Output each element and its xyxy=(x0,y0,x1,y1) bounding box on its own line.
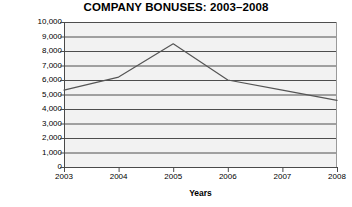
x-axis-tick-label: 2006 xyxy=(208,172,248,181)
x-axis-tick-label: 2004 xyxy=(99,172,139,181)
x-axis-tick-label: 2008 xyxy=(317,172,352,181)
bonuses-line-chart: COMPANY BONUSES: 2003–2008 Dollars 10,00… xyxy=(0,0,352,207)
x-axis-tick-label: 2003 xyxy=(44,172,84,181)
x-axis-tick-label: 2007 xyxy=(262,172,302,181)
x-axis-tick-label: 2005 xyxy=(153,172,193,181)
plot-background xyxy=(64,22,337,167)
x-axis-label: Years xyxy=(64,188,337,198)
